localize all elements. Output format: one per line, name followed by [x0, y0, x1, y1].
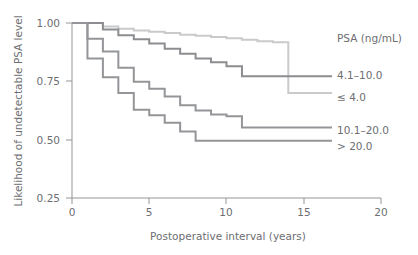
legend-label-10.1-20.0: 10.1–20.0 — [337, 124, 389, 136]
y-axis-ticks — [66, 23, 72, 198]
chart-canvas: 1.00 0.75 0.50 0.25 0 5 10 15 20 Postope… — [0, 0, 418, 255]
x-tick-label-10: 10 — [219, 206, 232, 218]
x-tick-label-0: 0 — [69, 206, 76, 218]
x-tick-label-5: 5 — [146, 206, 153, 218]
curve-20-0 — [72, 23, 332, 141]
x-tick-label-20: 20 — [374, 206, 387, 218]
kaplan-meier-chart: 1.00 0.75 0.50 0.25 0 5 10 15 20 Postope… — [0, 0, 418, 255]
legend-title: PSA (ng/mL) — [337, 32, 402, 44]
y-axis-title: Likelihood of undetectable PSA level — [12, 15, 24, 206]
legend-label-4.1-10.0: 4.1–10.0 — [337, 69, 382, 81]
y-tick-label-0.25: 0.25 — [37, 192, 60, 204]
x-axis-ticks — [72, 198, 381, 204]
legend-label-over-20.0: > 20.0 — [337, 140, 373, 152]
y-tick-label-1.00: 1.00 — [37, 17, 60, 29]
x-tick-label-15: 15 — [297, 206, 310, 218]
y-tick-label-0.75: 0.75 — [37, 75, 60, 87]
legend-label-under-4.0: ≤ 4.0 — [337, 91, 366, 103]
legend: PSA (ng/mL) 4.1–10.0 ≤ 4.0 10.1–20.0 > 2… — [337, 32, 402, 152]
x-axis-title: Postoperative interval (years) — [150, 230, 306, 242]
curve-group — [72, 23, 332, 141]
y-tick-label-0.50: 0.50 — [37, 134, 60, 146]
curve-4-1-10-0 — [72, 23, 332, 76]
